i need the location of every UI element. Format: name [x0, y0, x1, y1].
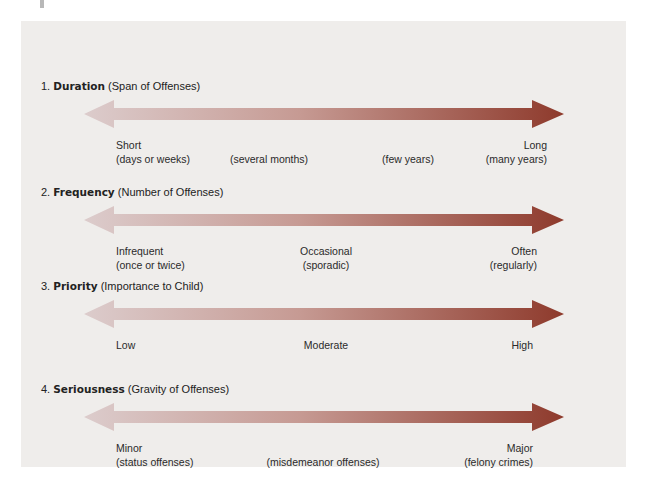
dimension-number: 1. [41, 80, 50, 92]
scale-label: High [511, 338, 533, 352]
dimension-subtitle: (Importance to Child) [101, 280, 204, 292]
scale-label: (several months) [230, 138, 308, 166]
dimension-title: 1. Duration (Span of Offenses) [41, 80, 200, 92]
diagram-panel: 1. Duration (Span of Offenses) Short (da… [21, 21, 626, 467]
dimension-title: 4. Seriousness (Gravity of Offenses) [41, 383, 229, 395]
dimension-number: 4. [41, 383, 50, 395]
corner-mark [40, 0, 44, 8]
scale-label: (few years) [382, 138, 434, 166]
dimension-subtitle: (Gravity of Offenses) [128, 383, 229, 395]
scale-label: Infrequent (once or twice) [116, 244, 185, 272]
double-arrow-icon [84, 403, 564, 431]
dimension-title: 3. Priority (Importance to Child) [41, 280, 203, 292]
scale-label: Often (regularly) [490, 244, 537, 272]
dimension-name: Frequency [53, 186, 114, 198]
double-arrow-icon [84, 100, 564, 128]
scale-label: Short (days or weeks) [116, 138, 190, 166]
double-arrow-icon [84, 206, 564, 234]
scale-label: Minor (status offenses) [116, 441, 193, 469]
dimension-name: Duration [53, 80, 105, 92]
dimension-name: Priority [53, 280, 97, 292]
scale-label: Moderate [304, 338, 348, 352]
dimension-title: 2. Frequency (Number of Offenses) [41, 186, 223, 198]
scale-label: Low [116, 338, 135, 352]
double-arrow-icon [84, 300, 564, 328]
dimension-subtitle: (Span of Offenses) [108, 80, 200, 92]
dimension-number: 3. [41, 280, 50, 292]
dimension-subtitle: (Number of Offenses) [118, 186, 224, 198]
scale-label: (misdemeanor offenses) [266, 441, 379, 469]
dimension-name: Seriousness [53, 383, 125, 395]
scale-label: Major (felony crimes) [464, 441, 533, 469]
scale-label: Occasional (sporadic) [300, 244, 352, 272]
dimension-number: 2. [41, 186, 50, 198]
scale-label: Long (many years) [486, 138, 547, 166]
